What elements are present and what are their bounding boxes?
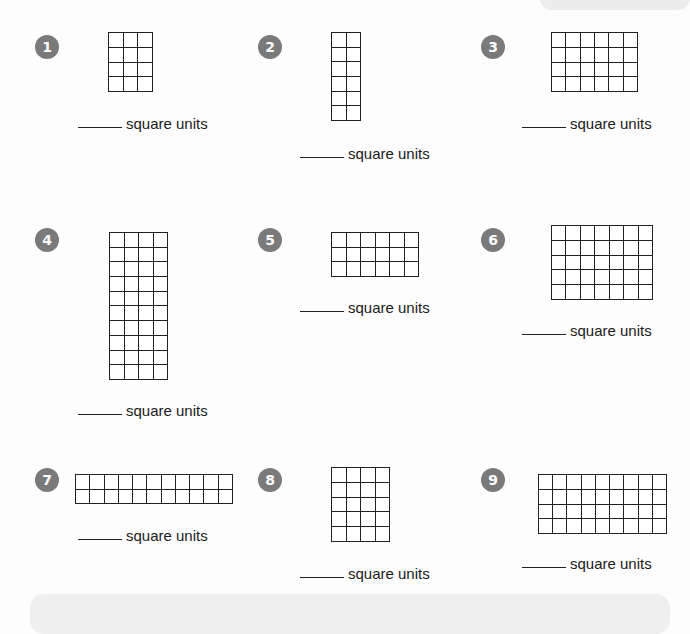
grid-cell bbox=[347, 483, 362, 498]
area-grid bbox=[109, 232, 168, 380]
grid-cell bbox=[653, 505, 667, 520]
grid-cell bbox=[332, 527, 347, 542]
grid-cell bbox=[552, 256, 566, 271]
grid-cell bbox=[162, 490, 176, 505]
grid-cell bbox=[595, 48, 609, 63]
grid-cell bbox=[110, 233, 125, 248]
grid-cell bbox=[624, 63, 638, 78]
grid-cell bbox=[376, 483, 391, 498]
grid-cell bbox=[332, 233, 347, 248]
grid-cell bbox=[567, 475, 581, 490]
grid-cell bbox=[119, 490, 133, 505]
area-grid bbox=[551, 32, 638, 92]
grid-cell bbox=[332, 468, 347, 483]
grid-cell bbox=[332, 92, 347, 107]
grid-cell bbox=[125, 351, 140, 366]
answer-blank[interactable] bbox=[300, 576, 344, 578]
grid-cell bbox=[332, 512, 347, 527]
grid-cell bbox=[376, 468, 391, 483]
problem-number-badge: 1 bbox=[35, 35, 59, 59]
grid-cell bbox=[376, 498, 391, 513]
answer-blank[interactable] bbox=[300, 310, 344, 312]
grid-cell bbox=[154, 351, 169, 366]
grid-cell bbox=[219, 490, 233, 505]
grid-cell bbox=[347, 512, 362, 527]
grid-cell bbox=[176, 475, 190, 490]
grid-cell bbox=[581, 48, 595, 63]
grid-cell bbox=[624, 241, 638, 256]
answer-blank[interactable] bbox=[78, 538, 122, 540]
grid-cell bbox=[609, 33, 623, 48]
grid-cell bbox=[582, 475, 596, 490]
grid-cell bbox=[347, 106, 362, 121]
grid-cell bbox=[361, 512, 376, 527]
grid-cell bbox=[566, 226, 580, 241]
answer-blank[interactable] bbox=[522, 333, 566, 335]
grid-cell bbox=[347, 48, 362, 63]
grid-cell bbox=[624, 256, 638, 271]
grid-cell bbox=[361, 527, 376, 542]
unit-label: square units bbox=[348, 145, 430, 162]
problem-number-badge: 9 bbox=[481, 468, 505, 492]
grid-cell bbox=[596, 519, 610, 534]
grid-cell bbox=[109, 77, 124, 92]
grid-cell bbox=[190, 490, 204, 505]
grid-cell bbox=[332, 48, 347, 63]
grid-cell bbox=[376, 262, 391, 277]
grid-cell bbox=[110, 321, 125, 336]
area-grid bbox=[331, 32, 361, 121]
grid-cell bbox=[552, 226, 566, 241]
grid-cell bbox=[124, 77, 139, 92]
grid-cell bbox=[119, 475, 133, 490]
header-panel bbox=[540, 0, 690, 10]
grid-cell bbox=[347, 92, 362, 107]
grid-cell bbox=[347, 248, 362, 263]
grid-cell bbox=[376, 512, 391, 527]
grid-cell bbox=[595, 33, 609, 48]
grid-cell bbox=[361, 233, 376, 248]
area-grid bbox=[331, 467, 390, 542]
grid-cell bbox=[539, 519, 553, 534]
grid-cell bbox=[125, 306, 140, 321]
unit-label: square units bbox=[348, 565, 430, 582]
grid-cell bbox=[539, 505, 553, 520]
grid-cell bbox=[139, 351, 154, 366]
grid-cell bbox=[639, 490, 653, 505]
grid-cell bbox=[581, 77, 595, 92]
grid-cell bbox=[581, 63, 595, 78]
answer-blank[interactable] bbox=[78, 413, 122, 415]
grid-cell bbox=[581, 241, 595, 256]
grid-cell bbox=[139, 292, 154, 307]
grid-cell bbox=[610, 270, 624, 285]
grid-cell bbox=[552, 285, 566, 300]
grid-cell bbox=[582, 505, 596, 520]
grid-cell bbox=[596, 475, 610, 490]
grid-cell bbox=[552, 77, 566, 92]
grid-cell bbox=[624, 519, 638, 534]
grid-cell bbox=[361, 483, 376, 498]
grid-cell bbox=[138, 48, 153, 63]
grid-cell bbox=[125, 292, 140, 307]
grid-cell bbox=[139, 262, 154, 277]
grid-cell bbox=[581, 285, 595, 300]
grid-cell bbox=[553, 519, 567, 534]
answer-blank[interactable] bbox=[522, 126, 566, 128]
grid-cell bbox=[139, 248, 154, 263]
grid-cell bbox=[125, 262, 140, 277]
grid-cell bbox=[566, 63, 580, 78]
grid-cell bbox=[610, 285, 624, 300]
grid-cell bbox=[581, 256, 595, 271]
grid-cell bbox=[332, 77, 347, 92]
grid-cell bbox=[566, 48, 580, 63]
grid-cell bbox=[566, 270, 580, 285]
grid-cell bbox=[639, 519, 653, 534]
grid-cell bbox=[139, 321, 154, 336]
grid-cell bbox=[190, 475, 204, 490]
grid-cell bbox=[567, 505, 581, 520]
answer-blank[interactable] bbox=[522, 566, 566, 568]
grid-cell bbox=[624, 226, 638, 241]
grid-cell bbox=[361, 262, 376, 277]
answer-blank[interactable] bbox=[300, 156, 344, 158]
grid-cell bbox=[595, 270, 609, 285]
answer-blank[interactable] bbox=[78, 126, 122, 128]
